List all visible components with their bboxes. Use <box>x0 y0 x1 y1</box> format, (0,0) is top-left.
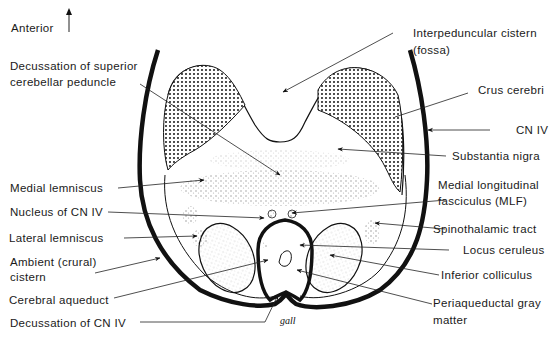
orientation-label: Anterior <box>11 21 54 36</box>
arrow-up-icon <box>66 8 72 32</box>
label-pag-line2: matter <box>433 313 467 328</box>
label-ambient-cistern-line2: cistern <box>10 270 46 285</box>
label-decussation-scp-line1: Decussation of superior <box>10 59 138 74</box>
label-substantia-nigra: Substantia nigra <box>452 149 540 164</box>
label-medial-lemniscus: Medial lemniscus <box>10 181 103 196</box>
label-lateral-lemniscus: Lateral lemniscus <box>9 231 104 246</box>
periaqueductal-gray <box>258 220 312 300</box>
label-interpeduncular-line1: Interpeduncular cistern <box>413 26 537 41</box>
label-inferior-colliculus: Inferior colliculus <box>441 268 532 283</box>
artist-signature: gall <box>280 315 296 326</box>
label-nucleus-cn4: Nucleus of CN IV <box>10 205 103 220</box>
label-ambient-cistern-line1: Ambient (crural) <box>10 255 97 270</box>
label-spinothalamic-tract: Spinothalamic tract <box>433 222 537 237</box>
label-crus-cerebri: Crus cerebri <box>478 83 544 98</box>
label-decussation-scp-line2: cerebellar peduncle <box>10 75 116 90</box>
label-cerebral-aqueduct: Cerebral aqueduct <box>9 293 109 308</box>
label-decussation-cn4: Decussation of CN IV <box>10 316 126 331</box>
label-interpeduncular-line2: (fossa) <box>413 43 450 58</box>
label-mlf-line1: Medial longitudinal <box>438 178 539 193</box>
label-mlf-line2: fasciculus (MLF) <box>438 194 527 209</box>
label-locus-ceruleus: Locus ceruleus <box>463 243 545 258</box>
midbrain-cross-section-diagram: gall <box>0 0 558 338</box>
label-pag-line1: Periaqueductal gray <box>433 296 541 311</box>
label-cn4: CN IV <box>516 123 548 138</box>
